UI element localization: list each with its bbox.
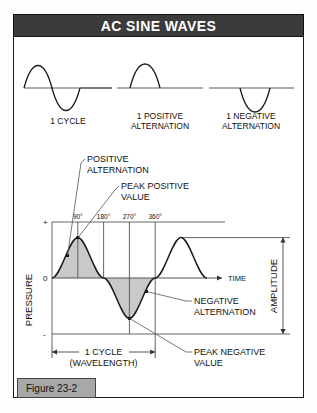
figure-number-label: Figure 23-2 [26,383,77,394]
page-title: AC SINE WAVES [101,18,216,34]
figure-number-tag: Figure 23-2 [17,378,96,398]
figure-page: AC SINE WAVES 1 CYCLE 1 POSITIVE ALTERNA… [0,0,317,413]
figure-card [13,14,304,398]
figure-title-bar: AC SINE WAVES [13,14,304,37]
